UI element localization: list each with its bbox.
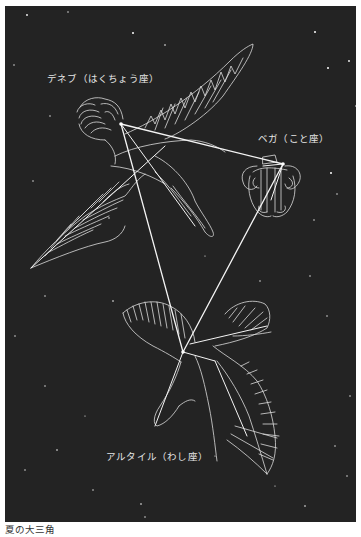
label-deneb: デネブ（はくちょう座） bbox=[47, 74, 159, 84]
summer-triangle-illustration: デネブ（はくちょう座） ベガ（こと座） アルタイル（わし座） bbox=[5, 6, 356, 522]
line-vega-altair bbox=[183, 164, 283, 352]
star-deneb bbox=[119, 122, 123, 126]
background-stars bbox=[13, 11, 356, 517]
aquila-illustration bbox=[123, 301, 279, 474]
figure-caption: 夏の大三角 bbox=[5, 525, 55, 535]
label-altair: アルタイル（わし座） bbox=[106, 452, 208, 462]
bright-stars bbox=[119, 122, 285, 354]
star-vega bbox=[281, 162, 285, 166]
summer-triangle-lines bbox=[31, 124, 283, 436]
star-altair bbox=[181, 350, 185, 354]
label-vega: ベガ（こと座） bbox=[258, 134, 329, 144]
